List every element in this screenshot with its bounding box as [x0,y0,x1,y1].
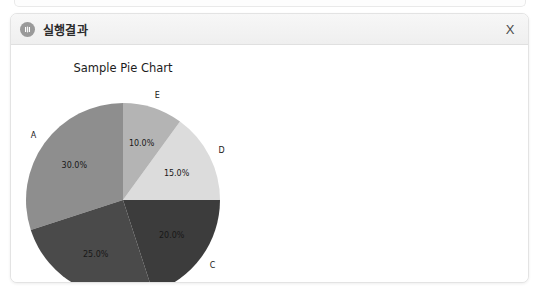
pie-slice-value-label: 15.0% [164,169,190,178]
pie-slice-value-label: 25.0% [83,250,109,259]
pie-slice-value-label: 10.0% [129,139,155,148]
dialog-content: Sample Pie Chart 30.0%25.0%20.0%15.0%10.… [11,45,528,282]
pie-category-label: D [218,146,224,155]
dialog-titlebar: 실행결과 X [11,14,528,45]
pie-chart-svg: Sample Pie Chart 30.0%25.0%20.0%15.0%10.… [11,45,528,282]
background-window-edge [14,0,526,7]
dialog-title: 실행결과 [43,21,88,38]
pie-slices [26,103,220,282]
pie-category-label: C [210,261,216,270]
pie-chart: Sample Pie Chart 30.0%25.0%20.0%15.0%10.… [11,45,528,282]
pie-slice-value-label: 20.0% [159,231,185,240]
pie-category-label: A [31,131,37,140]
pie-category-label: E [155,91,160,100]
pie-slice-value-label: 30.0% [62,161,88,170]
chart-title: Sample Pie Chart [74,61,173,75]
app-circle-icon [20,22,35,37]
result-dialog: 실행결과 X Sample Pie Chart 30.0%25.0%20.0%1… [10,13,529,283]
close-icon[interactable]: X [500,19,520,39]
